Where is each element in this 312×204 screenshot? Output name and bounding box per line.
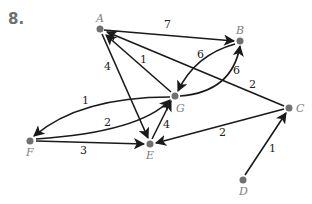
edge-label-b-g: 6	[197, 48, 204, 61]
node-g	[172, 93, 179, 100]
edge-label-a-e: 4	[104, 60, 111, 73]
node-e	[147, 141, 154, 148]
node-d	[240, 177, 247, 184]
node-label-d: D	[238, 185, 248, 198]
edge-label-e-g: 4	[163, 118, 170, 131]
edge-label-c-a: 2	[249, 78, 256, 91]
directed-graph: 7 4 1 2 6 6 1 2 3 4 2 1 A B G C E F D	[0, 0, 312, 204]
node-label-a: A	[95, 12, 104, 25]
node-c	[286, 105, 293, 112]
edge-d-c	[245, 113, 286, 175]
node-label-f: F	[25, 146, 34, 159]
node-label-g: G	[176, 102, 185, 115]
node-a	[97, 26, 104, 33]
node-label-b: B	[235, 24, 244, 37]
edge-label-a-b: 7	[164, 18, 171, 31]
edge-label-g-f: 1	[82, 94, 89, 107]
edge-label-f-e: 3	[80, 144, 87, 157]
edge-f-g	[36, 100, 170, 139]
edge-label-d-c: 1	[269, 142, 276, 155]
edge-f-e	[36, 141, 144, 144]
edge-label-g-b: 6	[233, 64, 240, 77]
edge-c-a	[107, 32, 284, 106]
edge-b-g	[178, 44, 235, 91]
edge-label-f-g: 2	[104, 116, 111, 129]
edge-label-g-a: 1	[140, 53, 147, 66]
node-label-c: C	[296, 102, 305, 115]
node-f	[27, 138, 34, 145]
edge-g-b	[180, 46, 240, 96]
node-label-e: E	[145, 149, 154, 162]
node-b	[237, 38, 244, 45]
edge-label-c-e: 2	[219, 126, 226, 139]
